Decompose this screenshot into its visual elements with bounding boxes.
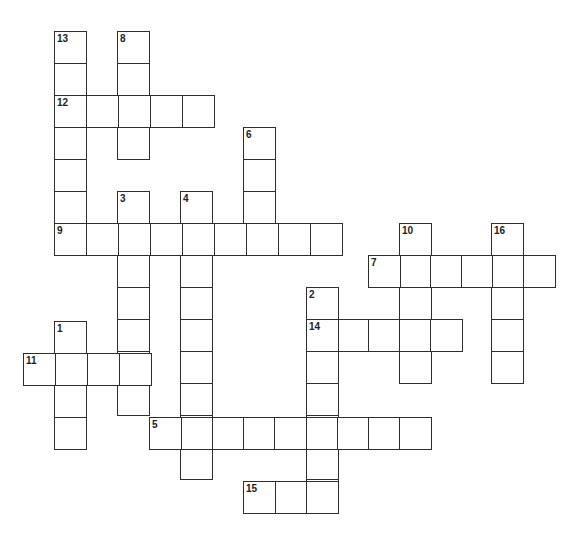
crossword-cell-14-across-3[interactable] xyxy=(368,319,401,352)
crossword-cell-15-across-2[interactable] xyxy=(275,481,308,514)
clue-number: 16 xyxy=(494,226,505,236)
crossword-cell-6-down-1[interactable]: 6 xyxy=(243,127,276,160)
crossword-cell-4-down-6[interactable] xyxy=(180,351,213,384)
crossword-cell-15-across-3[interactable] xyxy=(306,481,339,514)
clue-number: 11 xyxy=(26,356,37,366)
crossword-cell-9-across-2[interactable] xyxy=(86,223,119,256)
clue-number: 12 xyxy=(57,98,68,108)
crossword-cell-12-across-2[interactable] xyxy=(86,95,119,128)
crossword-cell-5-across-7[interactable] xyxy=(337,417,370,450)
clue-number: 9 xyxy=(57,226,63,236)
crossword-cell-13-down-6[interactable] xyxy=(54,191,87,224)
crossword-cell-2-down-1[interactable]: 2 xyxy=(306,287,339,320)
crossword-cell-9-across-5[interactable] xyxy=(182,223,215,256)
crossword-cell-5-across-8[interactable] xyxy=(368,417,401,450)
crossword-cell-10-down-5[interactable] xyxy=(399,351,432,384)
crossword-cell-5-across-4[interactable] xyxy=(243,417,276,450)
crossword-cell-13-down-4[interactable] xyxy=(54,127,87,160)
crossword-cell-8-down-1[interactable]: 8 xyxy=(117,31,150,64)
crossword-cell-4-down-5[interactable] xyxy=(180,319,213,352)
crossword-cell-8-down-2[interactable] xyxy=(117,63,150,96)
crossword-cell-5-across-1[interactable]: 5 xyxy=(149,417,182,450)
clue-number: 2 xyxy=(309,290,315,300)
clue-number: 3 xyxy=(120,194,126,204)
crossword-cell-3-down-1[interactable]: 3 xyxy=(117,191,150,224)
crossword-cell-4-down-1[interactable]: 4 xyxy=(180,191,213,224)
crossword-cell-2-down-4[interactable] xyxy=(306,383,339,416)
crossword-cell-16-down-3[interactable] xyxy=(491,287,524,320)
crossword-cell-16-down-4[interactable] xyxy=(491,319,524,352)
clue-number: 10 xyxy=(402,226,413,236)
crossword-cell-6-down-3[interactable] xyxy=(243,191,276,224)
clue-number: 15 xyxy=(246,484,257,494)
crossword-cell-12-across-3[interactable] xyxy=(118,95,151,128)
crossword-cell-4-down-4[interactable] xyxy=(180,287,213,320)
crossword-cell-5-across-5[interactable] xyxy=(274,417,307,450)
crossword-cell-3-down-5[interactable] xyxy=(117,319,150,352)
crossword-cell-10-down-3[interactable] xyxy=(399,287,432,320)
crossword-cell-1-down-4[interactable] xyxy=(54,417,87,450)
crossword-cell-14-across-2[interactable] xyxy=(337,319,370,352)
crossword-cell-14-across-5[interactable] xyxy=(430,319,463,352)
clue-number: 4 xyxy=(183,194,189,204)
crossword-cell-9-across-1[interactable]: 9 xyxy=(54,223,87,256)
crossword-cell-4-down-3[interactable] xyxy=(180,255,213,288)
crossword-cell-4-down-7[interactable] xyxy=(180,383,213,416)
clue-number: 1 xyxy=(57,324,63,334)
crossword-cell-6-down-2[interactable] xyxy=(243,159,276,192)
clue-number: 8 xyxy=(120,34,126,44)
crossword-cell-8-down-4[interactable] xyxy=(117,127,150,160)
crossword-cell-11-across-2[interactable] xyxy=(55,353,88,386)
crossword-cell-3-down-3[interactable] xyxy=(117,255,150,288)
crossword-cell-15-across-1[interactable]: 15 xyxy=(243,481,276,514)
crossword-cell-3-down-7[interactable] xyxy=(117,383,150,416)
crossword-cell-2-down-3[interactable] xyxy=(306,351,339,384)
crossword-cell-2-down-6[interactable] xyxy=(306,447,339,480)
crossword-cell-7-across-6[interactable] xyxy=(523,255,556,288)
crossword-cell-16-down-5[interactable] xyxy=(491,351,524,384)
crossword-cell-7-across-3[interactable] xyxy=(430,255,463,288)
crossword-cell-1-down-3[interactable] xyxy=(54,385,87,418)
clue-number: 7 xyxy=(371,258,377,268)
crossword-cell-12-across-4[interactable] xyxy=(150,95,183,128)
crossword-cell-7-across-4[interactable] xyxy=(461,255,494,288)
crossword-cell-1-down-1[interactable]: 1 xyxy=(54,321,87,354)
crossword-cell-12-across-5[interactable] xyxy=(182,95,215,128)
crossword-cell-7-across-5[interactable] xyxy=(492,255,525,288)
clue-number: 13 xyxy=(57,34,68,44)
crossword-cell-9-across-4[interactable] xyxy=(150,223,183,256)
crossword-cell-14-across-4[interactable] xyxy=(399,319,432,352)
crossword-cell-5-across-9[interactable] xyxy=(399,417,432,450)
crossword-cell-12-across-1[interactable]: 12 xyxy=(54,95,87,128)
crossword-cell-7-across-1[interactable]: 7 xyxy=(368,255,401,288)
crossword-cell-16-down-1[interactable]: 16 xyxy=(491,223,524,256)
crossword-cell-13-down-5[interactable] xyxy=(54,159,87,192)
crossword-cell-5-across-6[interactable] xyxy=(306,417,339,450)
crossword-grid: 13812634910167214111515 xyxy=(0,0,580,545)
crossword-cell-14-across-1[interactable]: 14 xyxy=(306,319,339,352)
crossword-cell-9-across-7[interactable] xyxy=(246,223,279,256)
clue-number: 14 xyxy=(309,322,320,332)
crossword-cell-11-across-3[interactable] xyxy=(87,353,120,386)
crossword-cell-13-down-1[interactable]: 13 xyxy=(54,31,87,64)
crossword-cell-9-across-8[interactable] xyxy=(278,223,311,256)
crossword-cell-7-across-2[interactable] xyxy=(399,255,432,288)
clue-number: 5 xyxy=(152,420,158,430)
crossword-cell-10-down-1[interactable]: 10 xyxy=(399,223,432,256)
crossword-cell-4-down-9[interactable] xyxy=(180,447,213,480)
crossword-cell-9-across-9[interactable] xyxy=(310,223,343,256)
crossword-cell-9-across-3[interactable] xyxy=(118,223,151,256)
crossword-cell-11-across-4[interactable] xyxy=(119,353,152,386)
crossword-cell-3-down-4[interactable] xyxy=(117,287,150,320)
clue-number: 6 xyxy=(246,130,252,140)
crossword-cell-13-down-2[interactable] xyxy=(54,63,87,96)
crossword-cell-5-across-2[interactable] xyxy=(180,417,213,450)
crossword-cell-9-across-6[interactable] xyxy=(214,223,247,256)
crossword-cell-11-across-1[interactable]: 11 xyxy=(23,353,56,386)
crossword-cell-5-across-3[interactable] xyxy=(212,417,245,450)
